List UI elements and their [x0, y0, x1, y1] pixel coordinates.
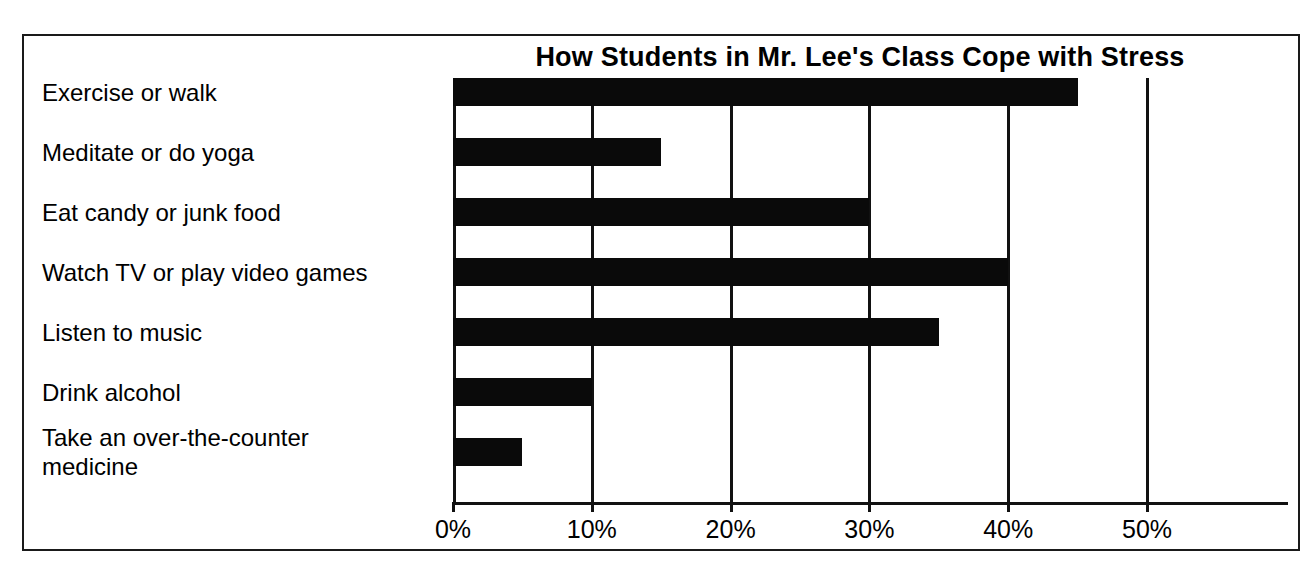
tick-mark-0pct — [452, 502, 455, 512]
x-tick-label: 40% — [983, 515, 1033, 544]
category-label: Listen to music — [42, 318, 202, 347]
chart-title: How Students in Mr. Lee's Class Cope wit… — [430, 42, 1290, 73]
x-tick-label: 30% — [844, 515, 894, 544]
x-tick-label: 0% — [435, 515, 471, 544]
x-tick-label: 50% — [1122, 515, 1172, 544]
x-tick-label: 10% — [567, 515, 617, 544]
bar — [453, 378, 592, 406]
category-label: Watch TV or play video games — [42, 258, 367, 287]
category-label: Exercise or walk — [42, 78, 217, 107]
plot-area: 0%10%20%30%40%50% — [453, 78, 1288, 502]
category-label: Meditate or do yoga — [42, 138, 254, 167]
bar — [453, 78, 1078, 106]
tick-mark-20pct — [730, 502, 733, 512]
gridline-20pct — [730, 78, 733, 502]
bar — [453, 198, 869, 226]
bar — [453, 318, 939, 346]
gridline-50pct — [1146, 78, 1149, 502]
tick-mark-10pct — [591, 502, 594, 512]
tick-mark-30pct — [868, 502, 871, 512]
category-label: Drink alcohol — [42, 378, 181, 407]
bar — [453, 258, 1008, 286]
gridline-40pct — [1007, 78, 1010, 502]
bar — [453, 438, 522, 466]
category-label: Eat candy or junk food — [42, 198, 281, 227]
tick-mark-40pct — [1007, 502, 1010, 512]
tick-mark-50pct — [1146, 502, 1149, 512]
bar — [453, 138, 661, 166]
x-tick-label: 20% — [706, 515, 756, 544]
gridline-30pct — [868, 78, 871, 502]
category-label: Take an over-the-counter medicine — [42, 423, 309, 481]
